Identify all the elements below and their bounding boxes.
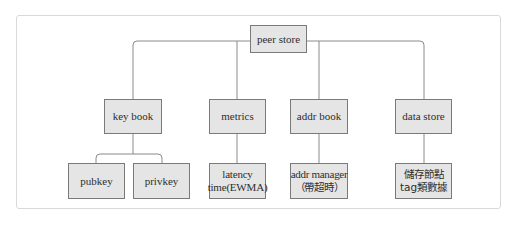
node-pubkey: pubkey xyxy=(68,163,125,199)
connector-root-left xyxy=(133,41,250,99)
node-key-book: key book xyxy=(104,99,162,134)
node-addr-manager: addr manager （帶超時） xyxy=(290,163,348,199)
node-label: data store xyxy=(402,110,444,123)
node-metrics: metrics xyxy=(209,99,266,134)
node-label: metrics xyxy=(221,110,253,123)
node-peer-store: peer store xyxy=(250,25,307,53)
node-label: pubkey xyxy=(80,175,112,188)
connector-root-right xyxy=(307,41,424,99)
node-label: privkey xyxy=(145,175,179,188)
node-label: peer store xyxy=(257,33,300,46)
node-label-line-1: addr manager xyxy=(291,168,348,181)
node-label: key book xyxy=(113,110,154,123)
node-privkey: privkey xyxy=(133,163,190,199)
node-label-line-1: latency xyxy=(222,168,252,181)
node-data-store: data store xyxy=(395,99,452,134)
connector-key-book-children xyxy=(96,134,162,163)
node-label-line-2: time(EWMA) xyxy=(208,181,268,194)
node-label: addr book xyxy=(297,110,341,123)
node-addr-book: addr book xyxy=(290,99,348,134)
node-label-line-2: tag類數據 xyxy=(400,181,447,194)
node-label-line-2: （帶超時） xyxy=(295,181,344,194)
node-latency-time: latency time(EWMA) xyxy=(209,163,266,199)
node-tag-data: 儲存節點 tag類數據 xyxy=(395,163,452,199)
node-label-line-1: 儲存節點 xyxy=(404,168,444,181)
